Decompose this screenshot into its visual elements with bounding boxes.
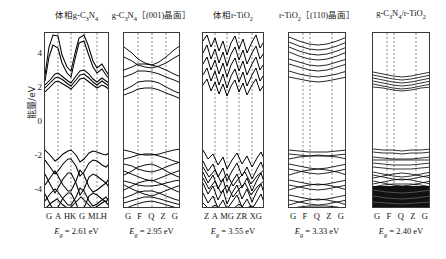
band-plot-3 [203,33,264,208]
panel-gc3n4-001: g-C3N4［(001)晶面］ [123,32,180,208]
x-labels-4: G F Q Z G [288,211,346,221]
kpoint-label: G [374,211,380,221]
kpoint-label: G [46,211,52,221]
y-tick-0: 0 [26,117,42,126]
x-labels-1: G A HK G MLH [44,211,109,221]
panel-bulk-gc3n4: 体相g-C3N4 [44,32,109,208]
panel-rtio2-110: r-TiO2［(110)晶面］ [288,32,346,208]
x-labels-5: G F Q Z G [372,211,430,221]
kpoint-label: Q [148,211,154,221]
kpoint-label: Z [326,211,331,221]
band-gap-value: 2.40 [396,226,411,236]
panel-title-2: g-C3N4［(001)晶面］ [112,8,192,22]
y-axis: 能量/eV 4 2 0 -2 -4 [18,0,42,259]
band-gap-unit: eV [164,226,174,236]
panel-title-1: 体相g-C3N4 [55,8,98,22]
panel-frame-3 [202,32,264,208]
band-plot-1 [45,33,109,208]
band-gap-2: Eg = 2.95 eV [129,226,173,238]
y-tick-4: 4 [26,49,42,58]
y-tick-m2: -2 [26,151,42,160]
kpoint-label: F [387,211,392,221]
y-axis-label: 能量/eV [25,68,38,138]
panel-frame-4 [288,32,346,208]
panel-title-5: g-C3N4/r-TiO2 [376,8,426,20]
kpoint-label: G [172,211,178,221]
kpoint-label: Z [160,211,165,221]
kpoint-label: F [137,211,142,221]
kpoint-label: Z [410,211,415,221]
x-labels-2: G F Q Z G [123,211,180,221]
band-structure-figure: 能量/eV 4 2 0 -2 -4 体相g-C3N4 [0,0,446,259]
y-tick-m4: -4 [26,185,42,194]
kpoint-label: F [303,211,308,221]
kpoint-label: A [55,211,61,221]
kpoint-label: XG [250,211,262,221]
panel-title-4: r-TiO2［(110)晶面］ [279,8,355,22]
band-gap-unit: eV [245,226,255,236]
band-gap-4: Eg = 3.33 eV [295,226,339,238]
panel-heterojunction: g-C3N4/r-TiO2 [372,32,430,208]
kpoint-label: Q [398,211,404,221]
kpoint-label: HK [64,211,76,221]
y-tick-2: 2 [26,83,42,92]
band-gap-value: 3.55 [228,226,243,236]
panel-frame-2 [123,32,180,208]
kpoint-label: G [125,211,131,221]
band-gap-3: Eg = 3.55 eV [211,226,255,238]
kpoint-label: G [290,211,296,221]
x-labels-3: Z A MG ZR XG [202,211,264,221]
band-gap-1: Eg = 2.61 eV [54,226,98,238]
band-gap-unit: eV [89,226,99,236]
kpoint-label: MG [220,211,234,221]
band-plot-4 [289,33,346,208]
kpoint-label: Z [204,211,209,221]
panel-frame-1 [44,32,109,208]
band-gap-5: Eg = 2.40 eV [379,226,423,238]
kpoint-label: G [422,211,428,221]
panel-title-3: 体相r-TiO2 [213,8,253,22]
kpoint-label: G [79,211,85,221]
kpoint-label: A [212,211,218,221]
panel-bulk-rtio2: 体相r-TiO2 [202,32,264,208]
band-gap-value: 2.95 [147,226,162,236]
band-gap-value: 3.33 [312,226,327,236]
panel-frame-5 [372,32,430,208]
band-plot-5 [373,33,430,208]
band-gap-unit: eV [329,226,339,236]
band-gap-value: 2.61 [72,226,87,236]
kpoint-label: MLH [88,211,107,221]
kpoint-label: ZR [236,211,247,221]
band-gap-unit: eV [413,226,423,236]
kpoint-label: G [338,211,344,221]
kpoint-label: Q [314,211,320,221]
band-plot-2 [124,33,180,208]
